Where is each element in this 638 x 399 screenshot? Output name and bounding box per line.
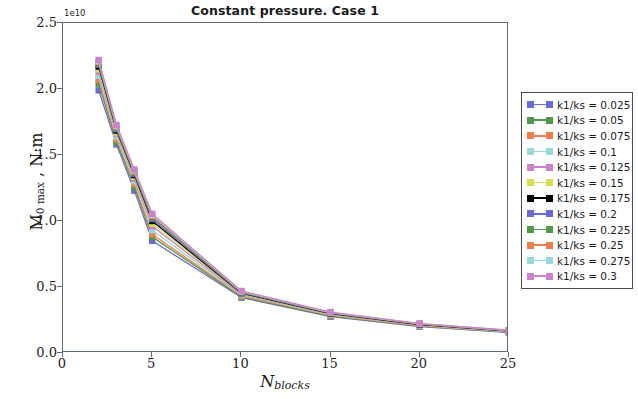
series-marker — [417, 320, 423, 326]
legend-marker — [527, 210, 534, 217]
series-marker — [327, 309, 333, 315]
legend-label: k1/ks = 0.125 — [554, 161, 630, 173]
series-line — [99, 84, 507, 332]
series-1 — [95, 81, 507, 336]
legend-swatch — [526, 161, 554, 173]
series-7 — [95, 61, 507, 334]
legend-label: k1/ks = 0.05 — [554, 114, 624, 126]
x-tick-mark — [240, 352, 241, 357]
legend-label: k1/ks = 0.175 — [554, 192, 630, 204]
series-line — [99, 72, 507, 332]
legend-marker — [546, 117, 553, 124]
series-line — [99, 76, 507, 332]
x-tick-label: 10 — [220, 356, 260, 371]
y-axis-label-rest: , N·m — [27, 132, 46, 182]
legend-label: k1/ks = 0.25 — [554, 239, 624, 251]
legend-label: k1/ks = 0.025 — [554, 99, 630, 111]
x-tick-label: 20 — [399, 356, 439, 371]
legend-marker — [527, 117, 534, 124]
y-tick-label: 2.5 — [5, 15, 57, 30]
chart-figure: Constant pressure. Case 1 1e10 0.00.51.0… — [0, 0, 638, 399]
legend-marker — [527, 195, 534, 202]
legend-marker — [546, 148, 553, 155]
legend-marker — [546, 242, 553, 249]
series-2 — [95, 77, 507, 336]
series-11 — [95, 57, 507, 334]
series-6 — [95, 63, 507, 334]
legend-item[interactable]: k1/ks = 0.2 — [526, 206, 629, 222]
legend-marker — [546, 257, 553, 264]
x-axis-label-sub: blocks — [274, 379, 310, 392]
series-line — [99, 62, 507, 330]
y-axis-label-sub: 0 max — [34, 182, 46, 214]
series-marker — [131, 166, 137, 172]
y-axis-label: M0 max , N·m — [27, 82, 46, 282]
legend-label: k1/ks = 0.275 — [554, 255, 630, 267]
x-tick-mark — [419, 352, 420, 357]
legend-marker — [527, 226, 534, 233]
legend-item[interactable]: k1/ks = 0.3 — [526, 269, 629, 285]
legend-item[interactable]: k1/ks = 0.275 — [526, 253, 629, 269]
chart-title: Constant pressure. Case 1 — [62, 3, 508, 18]
legend-marker — [527, 273, 534, 280]
series-marker — [113, 122, 119, 128]
series-marker — [149, 211, 155, 217]
legend-marker — [527, 179, 534, 186]
legend-marker — [527, 242, 534, 249]
series-0 — [95, 87, 507, 336]
plot-inner — [63, 23, 507, 351]
legend-swatch — [526, 114, 554, 126]
legend-marker — [546, 273, 553, 280]
legend-item[interactable]: k1/ks = 0.05 — [526, 113, 629, 129]
x-axis-label: Nblocks — [62, 372, 508, 392]
legend-marker — [546, 179, 553, 186]
legend-swatch — [526, 270, 554, 282]
legend-swatch — [526, 146, 554, 158]
series-line — [99, 90, 507, 332]
y-axis-label-main: M — [27, 214, 46, 230]
series-line — [99, 80, 507, 332]
legend: k1/ks = 0.025k1/ks = 0.05k1/ks = 0.075k1… — [521, 92, 633, 289]
legend-label: k1/ks = 0.075 — [554, 130, 630, 142]
series-line — [99, 63, 507, 330]
series-4 — [95, 69, 507, 335]
legend-swatch — [526, 224, 554, 236]
series-9 — [95, 59, 507, 334]
legend-swatch — [526, 255, 554, 267]
series-line — [99, 67, 507, 331]
legend-item[interactable]: k1/ks = 0.25 — [526, 237, 629, 253]
legend-swatch — [526, 208, 554, 220]
legend-item[interactable]: k1/ks = 0.075 — [526, 128, 629, 144]
x-tick-mark — [508, 352, 509, 357]
series-10 — [95, 58, 507, 334]
legend-marker — [527, 148, 534, 155]
series-line — [99, 61, 507, 330]
legend-item[interactable]: k1/ks = 0.025 — [526, 97, 629, 113]
legend-marker — [546, 226, 553, 233]
legend-marker — [527, 132, 534, 139]
legend-swatch — [526, 239, 554, 251]
series-canvas — [63, 23, 507, 351]
legend-item[interactable]: k1/ks = 0.1 — [526, 144, 629, 160]
x-tick-mark — [151, 352, 152, 357]
x-axis-label-main: N — [260, 372, 274, 391]
series-8 — [95, 60, 507, 334]
x-tick-mark — [62, 352, 63, 357]
legend-marker — [546, 195, 553, 202]
plot-area — [62, 22, 508, 352]
y-axis-exponent: 1e10 — [64, 8, 85, 18]
legend-item[interactable]: k1/ks = 0.175 — [526, 191, 629, 207]
legend-label: k1/ks = 0.1 — [554, 146, 617, 158]
series-marker — [506, 327, 507, 333]
legend-item[interactable]: k1/ks = 0.225 — [526, 222, 629, 238]
x-tick-mark — [330, 352, 331, 357]
legend-label: k1/ks = 0.3 — [554, 270, 617, 282]
x-tick-label: 0 — [42, 356, 82, 371]
legend-marker — [546, 101, 553, 108]
legend-item[interactable]: k1/ks = 0.125 — [526, 159, 629, 175]
legend-swatch — [526, 99, 554, 111]
series-marker — [238, 288, 244, 294]
series-5 — [95, 66, 507, 334]
legend-marker — [527, 101, 534, 108]
legend-item[interactable]: k1/ks = 0.15 — [526, 175, 629, 191]
